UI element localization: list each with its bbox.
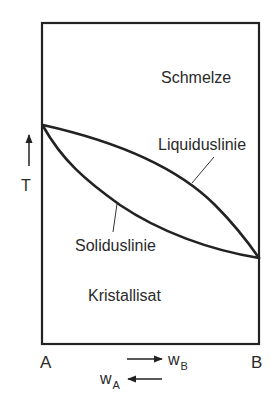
liquidus-leader-line	[192, 157, 214, 183]
region-label-solid: Kristallisat	[88, 287, 161, 304]
composition-b-subscript: B	[181, 360, 188, 372]
composition-a-subscript: A	[113, 379, 121, 391]
composition-a-label: wA	[99, 370, 121, 391]
liquidus-label: Liquiduslinie	[158, 136, 246, 153]
phase-diagram: Schmelze Kristallisat Liquiduslinie Soli…	[0, 0, 270, 402]
solidus-leader-line	[113, 204, 117, 232]
component-b-label: B	[251, 353, 262, 372]
composition-b-base: w	[167, 351, 180, 368]
component-a-label: A	[40, 353, 52, 372]
composition-b-label: wB	[167, 351, 188, 372]
temperature-axis-label: T	[21, 177, 31, 194]
solidus-label: Soliduslinie	[75, 237, 156, 254]
region-label-liquid: Schmelze	[161, 69, 231, 86]
composition-a-base: w	[99, 370, 112, 387]
